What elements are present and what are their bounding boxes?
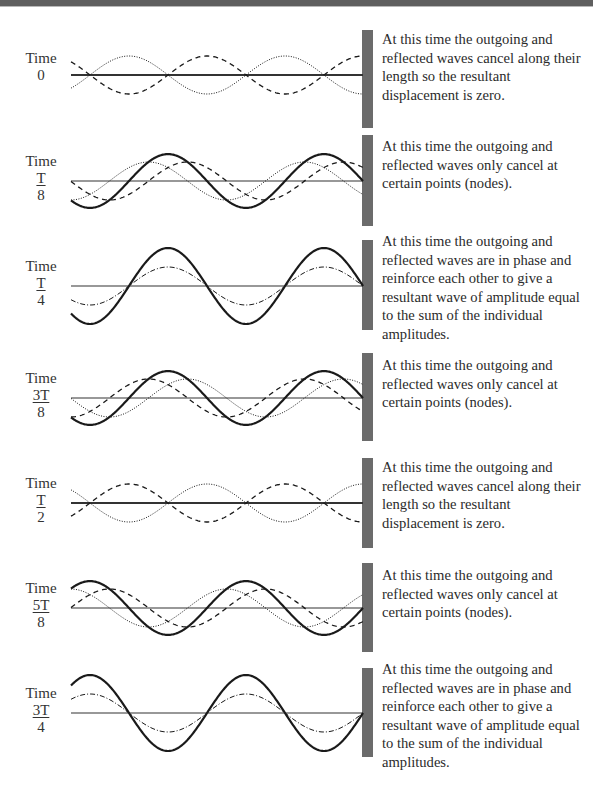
description-t1_2: At this time the outgoing and reflected … bbox=[382, 458, 587, 532]
fraction-denominator: 4 bbox=[11, 292, 71, 309]
time-word: Time bbox=[11, 153, 71, 170]
fraction-numerator: T bbox=[11, 275, 71, 292]
time-word: Time bbox=[11, 475, 71, 492]
description-t0: At this time the outgoing and reflected … bbox=[382, 30, 587, 104]
time-value: 0 bbox=[11, 67, 71, 84]
time-word: Time bbox=[11, 580, 71, 597]
time-label-t3_8: Time3T8 bbox=[11, 370, 71, 421]
time-label-t1_8: TimeT8 bbox=[11, 153, 71, 204]
time-label-t0: Time0 bbox=[11, 50, 71, 84]
fraction-denominator: 8 bbox=[11, 404, 71, 421]
description-t5_8: At this time the outgoing and reflected … bbox=[382, 566, 587, 622]
fraction-denominator: 2 bbox=[11, 509, 71, 526]
fraction-numerator: 5T bbox=[11, 597, 71, 614]
reflecting-wall bbox=[362, 30, 373, 128]
fraction-numerator: T bbox=[11, 492, 71, 509]
description-t3_4: At this time the outgoing and reflected … bbox=[382, 660, 587, 772]
time-word: Time bbox=[11, 50, 71, 67]
time-label-t1_4: TimeT4 bbox=[11, 258, 71, 309]
description-t3_8: At this time the outgoing and reflected … bbox=[382, 356, 587, 412]
description-t1_4: At this time the outgoing and reflected … bbox=[382, 232, 587, 344]
fraction-denominator: 4 bbox=[11, 719, 71, 736]
fraction-denominator: 8 bbox=[11, 614, 71, 631]
reflecting-wall bbox=[362, 563, 373, 652]
description-t1_8: At this time the outgoing and reflected … bbox=[382, 137, 587, 193]
time-label-t5_8: Time5T8 bbox=[11, 580, 71, 631]
time-word: Time bbox=[11, 258, 71, 275]
time-word: Time bbox=[11, 370, 71, 387]
reflecting-wall bbox=[362, 135, 373, 226]
fraction-denominator: 8 bbox=[11, 187, 71, 204]
fraction-numerator: 3T bbox=[11, 387, 71, 404]
reflecting-wall bbox=[362, 458, 373, 548]
reflecting-wall bbox=[362, 668, 373, 757]
fraction-numerator: 3T bbox=[11, 702, 71, 719]
fraction-numerator: T bbox=[11, 170, 71, 187]
reflecting-wall bbox=[362, 353, 373, 441]
time-label-t3_4: Time3T4 bbox=[11, 685, 71, 736]
time-word: Time bbox=[11, 685, 71, 702]
time-label-t1_2: TimeT2 bbox=[11, 475, 71, 526]
